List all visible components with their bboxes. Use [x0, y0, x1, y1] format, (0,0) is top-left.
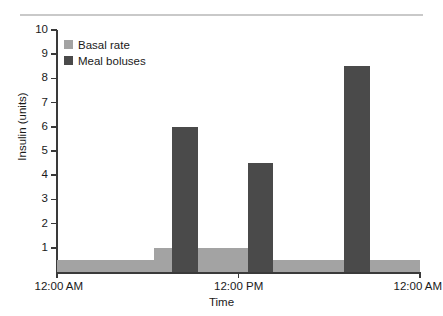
x-axis-tick — [56, 272, 58, 278]
meal-bolus-bar — [248, 163, 274, 272]
basal-rate-segment — [154, 248, 248, 272]
meal-bolus-bar — [172, 127, 198, 272]
top-divider-rule — [20, 14, 423, 16]
legend-swatch-icon — [64, 56, 73, 65]
legend-item-label: Meal boluses — [78, 55, 146, 67]
y-axis-tick-label: 1 — [8, 242, 48, 254]
x-axis-tick-label: 12:00 AM — [35, 280, 84, 293]
x-axis-tick-label: 12:00 PM — [214, 280, 263, 293]
basal-rate-segment — [57, 260, 154, 272]
chart-legend: Basal rateMeal boluses — [64, 38, 146, 70]
y-axis-title: Insulin (units) — [16, 57, 29, 197]
meal-bolus-bar — [344, 66, 370, 272]
x-axis-tick — [238, 272, 240, 278]
legend-item-label: Basal rate — [78, 39, 130, 51]
y-axis-tick-label: 2 — [8, 218, 48, 230]
y-axis-tick-label: 10 — [8, 24, 48, 36]
insulin-delivery-chart: 12345678910 12:00 AM12:00 PM12:00 AM Bas… — [0, 0, 443, 316]
x-axis-tick — [419, 272, 421, 278]
legend-item: Basal rate — [64, 38, 146, 51]
x-axis-tick-label: 12:00 AM — [394, 280, 443, 293]
legend-item: Meal boluses — [64, 54, 146, 67]
basal-rate-segment — [248, 260, 420, 272]
x-axis-title: Time — [0, 296, 443, 309]
legend-swatch-icon — [64, 40, 73, 49]
